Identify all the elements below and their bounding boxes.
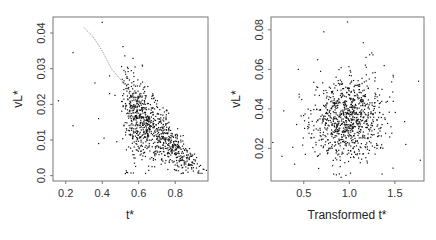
left-data-point [144, 119, 145, 120]
right-data-point [333, 160, 334, 161]
left-data-point [142, 110, 143, 111]
right-data-point [377, 100, 378, 101]
right-data-point [359, 112, 360, 113]
right-data-point [330, 113, 331, 114]
right-data-point [361, 143, 362, 144]
right-data-point [311, 133, 312, 134]
right-data-point [369, 129, 370, 130]
left-data-point [203, 169, 204, 170]
right-data-point [331, 107, 332, 108]
right-data-point [341, 67, 342, 68]
left-data-point [192, 154, 193, 155]
right-data-point [405, 144, 406, 145]
left-data-point [132, 88, 133, 89]
left-data-point [144, 147, 145, 148]
right-data-point [357, 114, 358, 115]
right-data-point [361, 126, 362, 127]
right-data-point [359, 131, 360, 132]
left-data-point [151, 120, 152, 121]
left-data-point [138, 141, 139, 142]
left-data-point [123, 99, 124, 100]
right-data-point [343, 134, 344, 135]
left-data-point [129, 92, 130, 93]
right-data-point [354, 133, 355, 134]
left-data-point [180, 155, 181, 156]
left-data-point [151, 109, 152, 110]
right-data-point [351, 119, 352, 120]
left-data-point [177, 153, 178, 154]
left-data-point [193, 159, 194, 160]
right-y-tick-label: 0.04 [253, 98, 265, 119]
left-data-point [173, 142, 174, 143]
left-data-point [133, 104, 134, 105]
left-data-point [133, 172, 134, 173]
right-data-point [350, 138, 351, 139]
left-data-point [129, 125, 130, 126]
left-data-point [165, 116, 166, 117]
left-data-point [184, 149, 185, 150]
right-data-point [340, 112, 341, 113]
right-data-point [418, 81, 419, 82]
left-data-point [161, 164, 162, 165]
right-data-point [346, 143, 347, 144]
right-data-point [338, 83, 339, 84]
right-data-point [370, 142, 371, 143]
right-y-tick-label: 0.06 [253, 59, 265, 80]
right-data-point [372, 102, 373, 103]
left-data-point [109, 93, 110, 94]
left-data-point [153, 114, 154, 115]
left-data-point [126, 105, 127, 106]
left-data-point [143, 149, 144, 150]
right-data-point [304, 128, 305, 129]
right-y-tick-label: 0.02 [253, 138, 265, 159]
left-data-point [130, 104, 131, 105]
right-data-point [332, 144, 333, 145]
right-x-axis: 0.51.01.5 [296, 181, 402, 199]
right-data-point [350, 107, 351, 108]
right-data-point [344, 122, 345, 123]
right-data-point [340, 111, 341, 112]
left-data-point [170, 151, 171, 152]
right-data-point [341, 154, 342, 155]
right-data-point [338, 121, 339, 122]
left-data-point [148, 147, 149, 148]
right-y-axis-label: vL* [229, 90, 243, 108]
left-data-point [134, 106, 135, 107]
left-data-point [132, 100, 133, 101]
left-data-point [126, 76, 127, 77]
left-data-point [177, 128, 178, 129]
left-data-point [128, 118, 129, 119]
left-data-point [135, 99, 136, 100]
left-data-point [141, 97, 142, 98]
left-data-point [153, 160, 154, 161]
right-data-point [323, 31, 324, 32]
left-data-point [147, 136, 148, 137]
right-data-point [334, 130, 335, 131]
right-data-point [327, 153, 328, 154]
right-data-point [353, 100, 354, 101]
left-data-point [164, 129, 165, 130]
left-data-point [139, 133, 140, 134]
left-data-point [163, 143, 164, 144]
left-data-point [127, 68, 128, 69]
left-data-point [137, 117, 138, 118]
left-data-point [141, 150, 142, 151]
left-data-point [185, 163, 186, 164]
left-data-point [132, 116, 133, 117]
left-data-point [192, 161, 193, 162]
right-data-point [343, 148, 344, 149]
left-data-point [157, 118, 158, 119]
left-data-point [131, 115, 132, 116]
right-data-point [339, 139, 340, 140]
right-data-point [344, 124, 345, 125]
left-data-point [133, 76, 134, 77]
left-data-point [177, 165, 178, 166]
left-data-point [163, 130, 164, 131]
right-data-point [366, 119, 367, 120]
right-data-point [357, 85, 358, 86]
right-data-point [346, 105, 347, 106]
right-data-point [332, 165, 333, 166]
right-data-point [358, 128, 359, 129]
right-data-point [373, 106, 374, 107]
left-data-point [147, 125, 148, 126]
